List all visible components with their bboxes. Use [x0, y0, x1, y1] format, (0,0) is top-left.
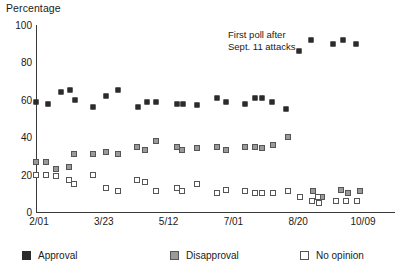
data-point-noopinion — [142, 179, 148, 185]
data-point-disapproval — [71, 151, 77, 157]
data-point-noopinion — [252, 190, 258, 196]
data-point-noopinion — [71, 181, 77, 187]
data-point-disapproval — [179, 147, 185, 153]
data-point-approval — [224, 99, 229, 104]
data-point-disapproval — [53, 166, 59, 172]
data-point-disapproval — [214, 144, 220, 150]
data-point-noopinion — [343, 198, 349, 204]
x-tick-label: 10/09 — [350, 216, 375, 227]
y-tick-label: 20 — [2, 169, 32, 180]
annotation-line-2: Sept. 11 attacks — [228, 41, 295, 53]
data-point-disapproval — [134, 144, 140, 150]
data-point-disapproval — [345, 190, 351, 196]
y-tick-label: 40 — [2, 132, 32, 143]
data-point-disapproval — [223, 147, 229, 153]
x-axis-line — [36, 212, 395, 213]
data-point-approval — [45, 101, 50, 106]
data-point-noopinion — [297, 194, 303, 200]
data-point-approval — [175, 101, 180, 106]
data-point-disapproval — [142, 147, 148, 153]
y-tick-label: 0 — [2, 207, 32, 218]
data-point-approval — [340, 37, 345, 42]
data-point-noopinion — [53, 173, 59, 179]
x-tick-label: 2/01 — [29, 216, 48, 227]
data-point-noopinion — [259, 190, 265, 196]
data-point-approval — [214, 95, 219, 100]
chart-legend: ApprovalDisapprovalNo opinion — [0, 248, 402, 270]
data-point-approval — [309, 37, 314, 42]
y-tick-label: 100 — [2, 20, 32, 31]
data-point-approval — [260, 95, 265, 100]
data-point-noopinion — [115, 188, 121, 194]
legend-label: Disapproval — [186, 250, 239, 261]
data-point-noopinion — [214, 190, 220, 196]
data-point-approval — [252, 95, 257, 100]
y-axis-line — [36, 25, 37, 213]
data-point-approval — [144, 99, 149, 104]
chart-container: Percentage 020406080100 2/013/235/127/01… — [0, 0, 402, 276]
data-point-disapproval — [103, 149, 109, 155]
legend-item-noopinion[interactable]: No opinion — [300, 250, 364, 261]
legend-label: No opinion — [316, 250, 364, 261]
data-point-disapproval — [357, 188, 363, 194]
data-point-approval — [180, 101, 185, 106]
data-point-disapproval — [153, 138, 159, 144]
data-point-approval — [59, 90, 64, 95]
data-point-disapproval — [194, 145, 200, 151]
x-tick-label: 3/23 — [94, 216, 113, 227]
y-tick-label: 60 — [2, 94, 32, 105]
data-point-approval — [153, 99, 158, 104]
data-point-noopinion — [43, 172, 49, 178]
data-point-disapproval — [270, 142, 276, 148]
data-point-noopinion — [103, 185, 109, 191]
data-point-noopinion — [270, 190, 276, 196]
annotation-line-1: First poll after — [228, 29, 295, 41]
data-point-disapproval — [338, 187, 344, 193]
x-tick-label: 7/01 — [224, 216, 243, 227]
data-point-disapproval — [43, 159, 49, 165]
x-tick-label: 5/12 — [159, 216, 178, 227]
legend-item-disapproval[interactable]: Disapproval — [170, 250, 239, 261]
legend-item-approval[interactable]: Approval — [22, 250, 77, 261]
data-point-noopinion — [316, 200, 322, 206]
data-point-noopinion — [153, 188, 159, 194]
data-point-approval — [103, 94, 108, 99]
data-point-disapproval — [66, 164, 72, 170]
data-point-noopinion — [223, 187, 229, 193]
annotation-first-poll: First poll after Sept. 11 attacks — [228, 29, 295, 52]
data-point-disapproval — [252, 144, 258, 150]
data-point-approval — [353, 41, 358, 46]
data-point-approval — [242, 101, 247, 106]
data-point-disapproval — [33, 159, 39, 165]
data-point-approval — [284, 107, 289, 112]
data-point-approval — [90, 105, 95, 110]
y-tick-label: 80 — [2, 57, 32, 68]
y-axis-ticks: 020406080100 — [0, 0, 32, 276]
data-point-noopinion — [134, 177, 140, 183]
data-point-disapproval — [285, 134, 291, 140]
legend-label: Approval — [38, 250, 77, 261]
data-point-noopinion — [90, 172, 96, 178]
data-point-disapproval — [242, 144, 248, 150]
data-point-noopinion — [285, 188, 291, 194]
data-point-disapproval — [259, 145, 265, 151]
legend-swatch-icon — [170, 251, 179, 260]
data-point-disapproval — [115, 151, 121, 157]
data-point-noopinion — [242, 188, 248, 194]
data-point-approval — [115, 88, 120, 93]
data-point-approval — [270, 99, 275, 104]
data-point-approval — [34, 99, 39, 104]
legend-swatch-icon — [22, 251, 31, 260]
data-point-approval — [73, 97, 78, 102]
data-point-noopinion — [179, 188, 185, 194]
x-tick-label: 8/20 — [288, 216, 307, 227]
legend-swatch-icon — [300, 251, 309, 260]
data-point-approval — [195, 103, 200, 108]
data-point-approval — [297, 49, 302, 54]
data-point-noopinion — [354, 198, 360, 204]
data-point-approval — [67, 88, 72, 93]
data-point-disapproval — [90, 151, 96, 157]
data-point-approval — [330, 41, 335, 46]
data-point-noopinion — [194, 181, 200, 187]
data-point-noopinion — [333, 198, 339, 204]
